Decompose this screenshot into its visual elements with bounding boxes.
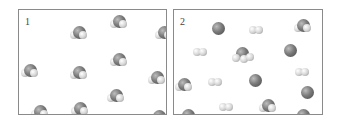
small-atom bbox=[116, 94, 124, 102]
small-atom bbox=[40, 110, 48, 115]
large-atom bbox=[301, 86, 314, 99]
small-atom bbox=[79, 71, 87, 79]
small-atom bbox=[268, 104, 276, 112]
small-atom bbox=[80, 107, 88, 115]
small-atom bbox=[199, 48, 207, 56]
large-atom bbox=[249, 74, 262, 87]
small-atom bbox=[294, 114, 302, 115]
small-atom bbox=[119, 20, 127, 28]
small-atom bbox=[79, 31, 87, 39]
small-atom bbox=[157, 76, 165, 84]
small-atom bbox=[184, 83, 192, 91]
small-atom bbox=[303, 114, 311, 115]
large-atom bbox=[212, 22, 225, 35]
panel-2-label: 2 bbox=[180, 16, 185, 27]
small-atom bbox=[30, 69, 38, 77]
small-atom bbox=[246, 53, 254, 61]
panel-1-label: 1 bbox=[25, 16, 30, 27]
small-atom bbox=[119, 58, 127, 66]
small-atom bbox=[303, 24, 311, 32]
large-atom bbox=[284, 44, 297, 57]
large-atom bbox=[297, 109, 310, 115]
small-atom bbox=[301, 68, 309, 76]
small-atom bbox=[232, 54, 240, 62]
small-atom bbox=[225, 103, 233, 111]
panel-2: 2 bbox=[173, 9, 323, 115]
small-atom bbox=[164, 31, 167, 39]
large-atom bbox=[182, 109, 195, 115]
small-atom bbox=[255, 26, 263, 34]
panel-1: 1 bbox=[18, 9, 167, 115]
small-atom bbox=[214, 78, 222, 86]
large-atom bbox=[153, 110, 166, 115]
